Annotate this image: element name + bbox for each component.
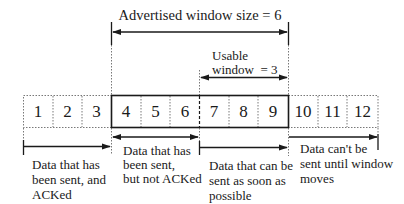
region-sent-not-acked: Data that has been sent, but not ACKed <box>113 137 202 186</box>
sent-not-acked-label-line1: Data that has <box>123 143 191 158</box>
region-sent-acked: Data that has been sent, and ACKed <box>24 140 111 202</box>
usable-window-annotation: Usable window = 3 <box>201 48 287 78</box>
sent-acked-label-line1: Data that has <box>32 157 100 172</box>
sent-not-acked-label-line2: been sent, <box>123 157 175 172</box>
advertised-window-label: Advertised window size = 6 <box>119 7 282 23</box>
sent-not-acked-label-line3: but not ACKed <box>123 171 202 186</box>
cell-10: 10 <box>295 102 312 121</box>
region-cannot-send: Data can't be sent until window moves <box>289 134 394 186</box>
sent-acked-label-line2: been sent, and <box>32 172 107 187</box>
sliding-window-diagram: Advertised window size = 6 Usable window… <box>0 0 404 204</box>
cannot-send-label-line2: sent until window <box>300 156 394 171</box>
cell-3: 3 <box>92 102 101 121</box>
byte-sequence-row: 1 2 3 4 5 6 7 8 9 10 11 12 <box>24 96 379 128</box>
cell-2: 2 <box>63 102 72 121</box>
cell-9: 9 <box>269 102 278 121</box>
cell-12: 12 <box>354 102 371 121</box>
cell-1: 1 <box>34 102 43 121</box>
region-can-send: Data that can be sent as soon as possibl… <box>200 141 294 203</box>
can-send-label-line3: possible <box>209 188 252 203</box>
can-send-label-line2: sent as soon as <box>209 173 286 188</box>
cell-6: 6 <box>181 102 190 121</box>
usable-window-label-line1: Usable <box>212 48 248 63</box>
cannot-send-label-line3: moves <box>300 171 334 186</box>
advertised-window-annotation: Advertised window size = 6 <box>112 7 289 45</box>
cannot-send-label-line1: Data can't be <box>300 141 368 156</box>
usable-window-label-line2: window = 3 <box>212 62 277 77</box>
cell-8: 8 <box>239 102 248 121</box>
cell-11: 11 <box>324 102 340 121</box>
cell-4: 4 <box>122 102 131 121</box>
can-send-label-line1: Data that can be <box>209 158 293 173</box>
cell-7: 7 <box>210 102 219 121</box>
sent-acked-label-line3: ACKed <box>32 187 72 202</box>
cell-5: 5 <box>151 102 160 121</box>
